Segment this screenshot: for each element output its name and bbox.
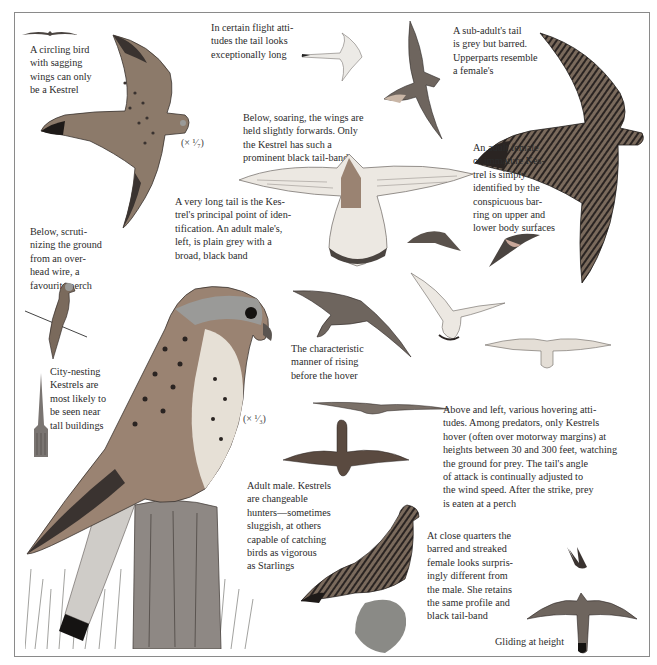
perched-adult-female-figure <box>295 503 435 653</box>
illustration-plate: A circling bird with sagging wings can o… <box>14 12 650 657</box>
hovering-figure-2 <box>485 221 545 271</box>
caption-circling: A circling bird with sagging wings can o… <box>30 43 92 97</box>
caption-close-quarters: At close quarters the barred and streake… <box>427 529 513 623</box>
scale-label-flying-male: (× ¹⁄₇) <box>181 137 204 148</box>
caption-rising: The characteristic manner of rising befo… <box>291 342 364 382</box>
caption-very-long-tail: A very long tail is the Kes- trel's prin… <box>175 195 291 262</box>
caption-long-tail-flight: In certain flight atti- tudes the tail l… <box>211 21 293 61</box>
hovering-figure-4 <box>483 331 613 371</box>
caption-hovering: Above and left, various hovering atti- t… <box>443 403 617 510</box>
long-tail-flight-figure <box>300 29 370 84</box>
sub-adult-figure <box>380 17 455 142</box>
caption-gliding: Gliding at height <box>495 635 564 648</box>
diving-silhouette-figure <box>563 543 593 573</box>
hovering-figure-1 <box>405 223 465 258</box>
scale-label-perched-male: (× ¹⁄₃) <box>243 413 266 424</box>
hovering-figure-6 <box>281 418 411 478</box>
hovering-figure-5 <box>311 397 451 417</box>
perched-adult-male-figure <box>25 269 285 649</box>
